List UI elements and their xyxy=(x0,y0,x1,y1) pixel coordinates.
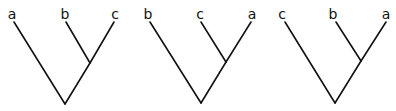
edge-root-leaf-1 xyxy=(285,22,335,103)
edge-root-leaf-1 xyxy=(150,22,201,103)
leaf-label: b xyxy=(144,6,153,22)
leaf-label: b xyxy=(329,6,338,22)
leaf-label: c xyxy=(278,6,286,22)
tree-3: c b a xyxy=(278,6,390,103)
leaf-label: a xyxy=(382,6,391,22)
leaf-label: b xyxy=(61,6,70,22)
leaf-label: a xyxy=(248,6,257,22)
edge-root-leaf-1 xyxy=(14,22,65,104)
edge-node-leaf-3 xyxy=(361,22,386,61)
edge-node-leaf-2 xyxy=(336,22,361,61)
edge-node-leaf-3 xyxy=(90,22,114,63)
tree-2: b c a xyxy=(144,6,257,103)
leaf-label: a xyxy=(8,6,17,22)
cladogram-diagram: a b c b c a c b a xyxy=(0,0,396,111)
edge-root-node xyxy=(201,62,226,103)
leaf-label: c xyxy=(111,6,119,22)
edge-node-leaf-2 xyxy=(201,22,226,62)
edge-root-node xyxy=(65,63,90,104)
edge-node-leaf-3 xyxy=(226,22,251,62)
edge-root-node xyxy=(335,61,361,103)
leaf-label: c xyxy=(196,6,204,22)
tree-1: a b c xyxy=(8,6,119,104)
edge-node-leaf-2 xyxy=(66,22,90,63)
